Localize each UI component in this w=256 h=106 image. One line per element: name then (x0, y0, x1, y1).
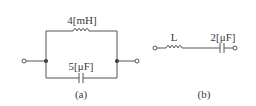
caption-a: (a) (75, 88, 88, 101)
circuit-b: L 2[μF] (b) (153, 31, 237, 101)
terminal-a-right (135, 59, 139, 63)
inductor-b-label: L (171, 31, 178, 43)
terminal-b-right (233, 46, 237, 50)
capacitor-a-label: 5[μF] (69, 60, 94, 72)
inductor-a-label: 4[mH] (67, 14, 96, 26)
caption-b: (b) (198, 88, 211, 101)
inductor-b-icon (166, 46, 182, 49)
terminal-b-left (153, 46, 157, 50)
circuit-a: 4[mH] 5[μF] (a) (22, 14, 139, 101)
inductor-a-icon (73, 29, 89, 32)
terminal-a-left (22, 59, 26, 63)
capacitor-b-label: 2[μF] (211, 31, 236, 43)
circuit-diagram: 4[mH] 5[μF] (a) L 2[μF] (b) (0, 0, 256, 106)
